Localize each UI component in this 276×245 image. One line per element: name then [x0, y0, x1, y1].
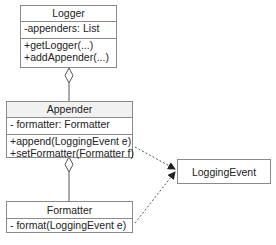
class-appender[interactable]: Appender - formatter: Formatter +append(…: [6, 101, 133, 158]
class-name: Formatter: [7, 202, 132, 219]
attribute: -appenders: List: [24, 23, 113, 35]
method: +getLogger(...): [24, 40, 113, 52]
class-methods: +getLogger(...) +addAppender(...): [21, 38, 116, 65]
dependency-appender-loggingevent: [135, 147, 175, 169]
method: +addAppender(...): [24, 52, 113, 64]
aggregation-logger-appender: [65, 68, 73, 101]
attribute: - formatter: Formatter: [10, 119, 129, 131]
class-loggingevent[interactable]: LoggingEvent: [177, 159, 271, 184]
class-name: Appender: [7, 102, 132, 118]
class-name: Logger: [21, 6, 116, 22]
aggregation-appender-formatter: [65, 157, 73, 201]
class-attributes: - formatter: Formatter: [7, 118, 132, 134]
method: +setFormatter(Formatter f): [10, 148, 129, 160]
class-logger[interactable]: Logger -appenders: List +getLogger(...) …: [20, 5, 117, 68]
class-methods: - format(LoggingEvent e): [7, 219, 132, 234]
method: - format(LoggingEvent e): [10, 220, 129, 232]
method: +append(LoggingEvent e): [10, 136, 129, 148]
class-attributes: -appenders: List: [21, 22, 116, 38]
class-formatter[interactable]: Formatter - format(LoggingEvent e): [6, 201, 133, 233]
class-name: LoggingEvent: [192, 166, 256, 178]
dependency-formatter-loggingevent: [135, 172, 175, 223]
class-methods: +append(LoggingEvent e) +setFormatter(Fo…: [7, 134, 132, 161]
